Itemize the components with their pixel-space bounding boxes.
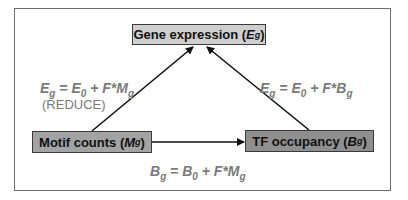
eq-term: B xyxy=(182,163,192,179)
node-label: Motif counts ( xyxy=(39,135,124,150)
eq-op: + F* xyxy=(306,80,336,96)
node-motif-counts: Motif counts (Mg) xyxy=(32,131,152,153)
node-gene-expression: Gene expression (Eg) xyxy=(132,24,266,45)
eq-term: B xyxy=(336,80,346,96)
node-label: Gene expression ( xyxy=(133,27,246,42)
node-close: ) xyxy=(362,134,366,149)
node-label: TF occupancy ( xyxy=(252,134,347,149)
eq-lhs: B xyxy=(150,163,160,179)
eq-sub: g xyxy=(240,171,246,182)
equation-tf-to-gene: Eg = E0 + F*Bg xyxy=(260,80,353,96)
eq-lhs: E xyxy=(40,80,49,96)
equation-motif-to-tf: Bg = B0 + F*Mg xyxy=(150,163,246,179)
node-close: ) xyxy=(260,27,264,42)
node-var: E xyxy=(246,27,255,42)
equation-motif-to-gene: Eg = E0 + F*Mg xyxy=(40,80,134,96)
eq-op: + F* xyxy=(198,163,228,179)
eq-term: E xyxy=(291,80,300,96)
eq-term: E xyxy=(71,80,80,96)
eq-lhs: E xyxy=(260,80,269,96)
node-close: ) xyxy=(141,135,145,150)
eq-op: + F* xyxy=(86,80,116,96)
eq-equals: = xyxy=(275,80,291,96)
node-var: B xyxy=(348,134,357,149)
eq-equals: = xyxy=(55,80,71,96)
eq-sub: g xyxy=(346,88,352,99)
eq-equals: = xyxy=(166,163,182,179)
eq-term: M xyxy=(228,163,240,179)
node-tf-occupancy: TF occupancy (Bg) xyxy=(245,130,374,152)
node-var: M xyxy=(124,135,135,150)
reduce-note: (REDUCE) xyxy=(42,97,106,112)
eq-sub: g xyxy=(128,88,134,99)
eq-term: M xyxy=(116,80,128,96)
